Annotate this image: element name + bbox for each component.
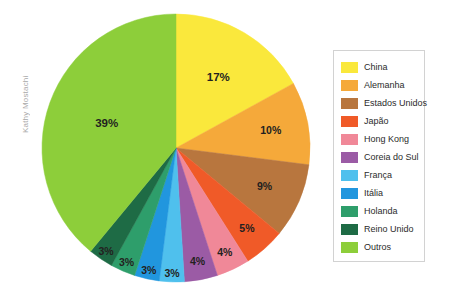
legend-item[interactable]: Holanda [334, 202, 424, 220]
pie-slice-label: 4% [217, 246, 233, 258]
legend-item[interactable]: Estados Unidos [334, 94, 424, 112]
legend-item-label: Coreia do Sul [364, 152, 419, 163]
legend-item-label: Itália [364, 188, 383, 199]
pie-chart: 17%10%9%5%4%4%3%3%3%3%39% [0, 0, 330, 293]
legend-swatch-icon [341, 170, 358, 181]
legend-item-label: Reino Unido [364, 224, 414, 235]
legend-swatch-icon [341, 224, 358, 235]
pie-chart-svg: 17%10%9%5%4%4%3%3%3%3%39% [0, 0, 330, 293]
pie-slice-label: 3% [119, 256, 135, 268]
legend-item[interactable]: Alemanha [334, 76, 424, 94]
legend-swatch-icon [341, 134, 358, 145]
legend-item[interactable]: Reino Unido [334, 220, 424, 238]
pie-slice-label: 39% [95, 117, 118, 129]
legend-item-label: Hong Kong [364, 134, 409, 145]
legend-item[interactable]: Coreia do Sul [334, 148, 424, 166]
pie-slice-label: 17% [207, 71, 230, 83]
legend-item[interactable]: Outros [334, 238, 424, 256]
legend-item-label: China [364, 62, 388, 73]
legend-item-label: Estados Unidos [364, 98, 427, 109]
legend-item-label: Outros [364, 242, 391, 253]
pie-slice-label: 3% [98, 245, 114, 257]
legend-item[interactable]: Japão [334, 112, 424, 130]
legend-item[interactable]: Itália [334, 184, 424, 202]
legend-item-label: Holanda [364, 206, 398, 217]
legend: ChinaAlemanhaEstados UnidosJapãoHong Kon… [333, 50, 425, 262]
pie-slice-label: 3% [165, 267, 181, 279]
legend-swatch-icon [341, 206, 358, 217]
pie-slice-label: 3% [141, 264, 157, 276]
pie-slice-label: 10% [260, 124, 282, 136]
legend-swatch-icon [341, 242, 358, 253]
pie-slice-group [42, 14, 310, 282]
legend-swatch-icon [341, 152, 358, 163]
chart-canvas: Kathy Mostachi 17%10%9%5%4%4%3%3%3%3%39%… [0, 0, 454, 293]
legend-swatch-icon [341, 98, 358, 109]
pie-slice-label: 9% [257, 180, 273, 192]
legend-swatch-icon [341, 188, 358, 199]
legend-item-label: França [364, 170, 392, 181]
legend-swatch-icon [341, 62, 358, 73]
legend-item-label: Japão [364, 116, 389, 127]
legend-swatch-icon [341, 80, 358, 91]
legend-item[interactable]: China [334, 58, 424, 76]
pie-slice-label: 5% [239, 222, 255, 234]
legend-swatch-icon [341, 116, 358, 127]
pie-slice-label: 4% [190, 255, 206, 267]
legend-item[interactable]: França [334, 166, 424, 184]
legend-item[interactable]: Hong Kong [334, 130, 424, 148]
legend-item-label: Alemanha [364, 80, 405, 91]
